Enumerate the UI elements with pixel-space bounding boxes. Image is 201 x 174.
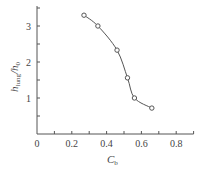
y-tick-label: 3 bbox=[26, 21, 31, 32]
data-point bbox=[125, 76, 129, 80]
axes bbox=[37, 6, 194, 134]
data-point bbox=[96, 24, 100, 28]
x-tick-label: 0.2 bbox=[66, 138, 79, 149]
data-markers bbox=[82, 13, 154, 110]
chart: 00.20.40.60.8 123 Cb hlung/h0 bbox=[0, 0, 201, 174]
data-point bbox=[150, 106, 154, 110]
data-point bbox=[115, 48, 119, 52]
x-axis-label: Cb bbox=[107, 153, 118, 167]
y-tick-label: 1 bbox=[26, 93, 31, 104]
data-point bbox=[82, 13, 86, 17]
x-tick-label: 0.8 bbox=[170, 138, 183, 149]
y-axis-label: hlung/h0 bbox=[8, 61, 22, 92]
x-tick-label: 0.4 bbox=[100, 138, 113, 149]
y-tick-label: 2 bbox=[26, 57, 31, 68]
x-tick-label: 0 bbox=[35, 138, 40, 149]
y-axis-ticks: 123 bbox=[26, 8, 40, 116]
data-point bbox=[132, 96, 136, 100]
fit-curve bbox=[84, 15, 152, 108]
x-tick-label: 0.6 bbox=[135, 138, 148, 149]
